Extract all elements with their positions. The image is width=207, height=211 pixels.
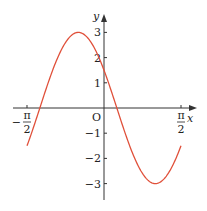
x-tick-numerator: π xyxy=(23,109,30,122)
x-tick-denominator: 2 xyxy=(23,123,30,136)
y-tick-label: −2 xyxy=(85,152,101,165)
x-axis-label: x xyxy=(187,112,194,125)
x-axis-arrow-icon xyxy=(189,105,197,111)
y-tick-label: 3 xyxy=(94,26,101,39)
origin-label: O xyxy=(92,111,101,124)
labels: y x O 321−1−2−3π2−π2 xyxy=(12,10,194,191)
x-tick-sign: − xyxy=(12,116,21,129)
y-tick-label: −1 xyxy=(85,127,101,140)
y-tick-label: −3 xyxy=(85,178,101,191)
y-axis-label: y xyxy=(92,10,100,23)
y-tick-label: 1 xyxy=(94,77,101,90)
y-axis-arrow-icon xyxy=(101,14,107,22)
x-tick-numerator: π xyxy=(177,109,184,122)
sine-graph: y x O 321−1−2−3π2−π2 xyxy=(0,0,207,211)
x-tick-denominator: 2 xyxy=(178,123,185,136)
